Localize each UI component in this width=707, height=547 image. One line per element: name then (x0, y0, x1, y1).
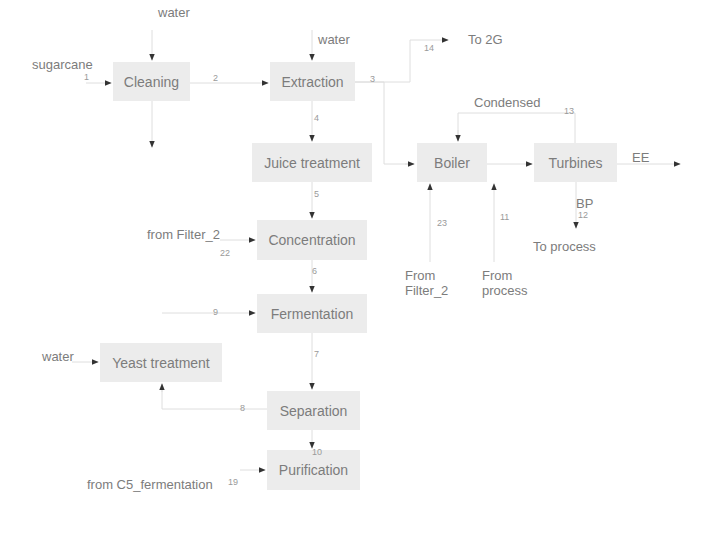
label-water-extraction: water (318, 32, 350, 47)
stream-19-number: 19 (228, 477, 238, 487)
stream-7-number: 7 (314, 349, 319, 359)
stream-22-number: 22 (220, 248, 230, 258)
stream-8-number: 8 (240, 403, 245, 413)
label-condensed: Condensed (474, 95, 541, 110)
unit-separation[interactable]: Separation (267, 391, 360, 430)
stream-4-number: 4 (314, 113, 319, 123)
label-to-2g: To 2G (468, 32, 503, 47)
label-from-filter2-conc: from Filter_2 (147, 227, 220, 242)
stream-13-number: 13 (564, 106, 574, 116)
stream-23-number: 23 (437, 218, 447, 228)
stream-8-line (162, 384, 267, 409)
stream-13-line (458, 113, 575, 143)
unit-concentration[interactable]: Concentration (257, 220, 367, 260)
unit-yeast-treatment[interactable]: Yeast treatment (100, 343, 222, 382)
unit-turbines[interactable]: Turbines (534, 143, 617, 182)
label-ee: EE (632, 150, 649, 165)
stream-3-number: 3 (370, 74, 375, 84)
stream-6-number: 6 (312, 266, 317, 276)
label-from-process: From process (482, 268, 528, 298)
label-to-process: To process (533, 239, 596, 254)
stream-2-number: 2 (213, 73, 218, 83)
process-flow-diagram: Cleaning Extraction Juice treatment Boil… (0, 0, 707, 547)
label-bp: BP (576, 196, 593, 211)
stream-11-number: 11 (500, 212, 509, 222)
unit-juice-treatment[interactable]: Juice treatment (252, 143, 372, 182)
stream-5-number: 5 (314, 189, 319, 199)
label-from-filter2-boiler: From Filter_2 (405, 268, 448, 298)
stream-14-number: 14 (424, 43, 434, 53)
unit-fermentation[interactable]: Fermentation (257, 294, 367, 333)
stream-1-number: 1 (84, 72, 89, 82)
stream-10-number: 10 (312, 447, 322, 457)
unit-cleaning[interactable]: Cleaning (113, 62, 190, 101)
label-water-cleaning: water (158, 5, 190, 20)
label-sugarcane: sugarcane (32, 57, 93, 72)
unit-extraction[interactable]: Extraction (270, 62, 355, 101)
stream-9-number: 9 (213, 307, 218, 317)
stream-12-number: 12 (578, 210, 588, 220)
unit-boiler[interactable]: Boiler (417, 143, 487, 182)
label-from-c5: from C5_fermentation (87, 477, 213, 492)
label-water-yeast: water (42, 349, 74, 364)
